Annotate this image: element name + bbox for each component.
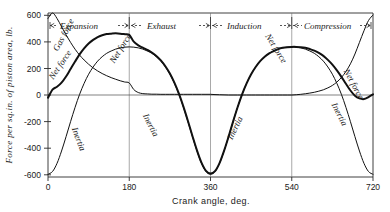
engine-force-chart: Expansion Exhaust Induction Compression …: [0, 0, 390, 212]
y-tick-label-0: 0: [36, 90, 41, 100]
y-axis-ticks: 600 400 200 0 -200 -400 -600: [24, 10, 51, 180]
curve-label-inertia-7: Inertia: [329, 100, 350, 128]
x-axis-title: Crank angle, deg.: [172, 196, 250, 206]
y-tick-label-200: 200: [27, 64, 41, 74]
curve-label-net-force-1: Net force: [46, 48, 73, 82]
curve-label-gas-force-0: Gas force: [51, 17, 76, 53]
phase-label-compression: Compression: [304, 21, 352, 31]
y-tick-label-600: 600: [27, 10, 41, 20]
x-tick-label-360: 360: [203, 182, 217, 192]
chart-svg: Expansion Exhaust Induction Compression …: [0, 0, 390, 212]
phase-label-induction: Induction: [226, 21, 262, 31]
x-tick-label-720: 720: [366, 182, 380, 192]
curve-labels: Gas forceNet forceInertiaNet forceInerti…: [46, 17, 366, 153]
x-tick-label-540: 540: [285, 182, 299, 192]
y-tick-label-minus400: -400: [24, 143, 41, 153]
y-axis-title: Force per sq.in. of piston area, lb.: [4, 26, 14, 164]
x-tick-label-180: 180: [122, 182, 136, 192]
curve-label-inertia-4: Inertia: [140, 111, 161, 139]
y-tick-label-400: 400: [27, 37, 41, 47]
y-tick-label-minus200: -200: [24, 117, 41, 127]
phase-label-exhaust: Exhaust: [146, 21, 176, 31]
y-tick-label-minus600: -600: [24, 170, 41, 180]
curve-label-inertia-5: Inertia: [225, 114, 245, 142]
curve-label-inertia-2: Inertia: [70, 125, 88, 153]
phase-labels: Expansion Exhaust Induction Compression: [59, 21, 352, 31]
x-tick-label-0: 0: [46, 182, 51, 192]
x-axis-ticks: 0 180 360 540 720: [46, 177, 381, 192]
